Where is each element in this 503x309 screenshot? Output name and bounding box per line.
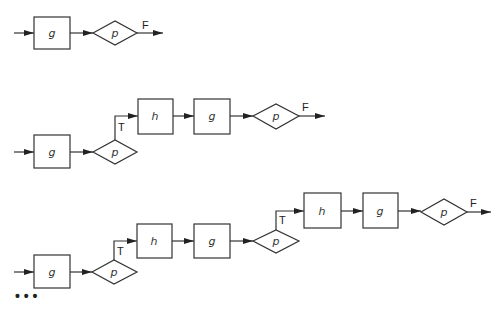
process-label-g: g xyxy=(49,266,56,279)
process-label-h: h xyxy=(151,235,158,248)
row-3: g p T h g p T h g p F xyxy=(14,193,491,288)
process-label-h: h xyxy=(319,205,326,218)
row-1: g p F xyxy=(14,17,163,49)
continuation-ellipsis: • • • xyxy=(15,288,38,304)
false-label: F xyxy=(302,101,309,113)
true-label: T xyxy=(118,121,125,133)
decision-label-p: p xyxy=(440,206,448,219)
decision-label-p: p xyxy=(111,146,119,159)
decision-label-p: p xyxy=(272,235,280,248)
process-label-g: g xyxy=(49,27,56,40)
decision-label-p: p xyxy=(111,27,119,40)
process-label-h: h xyxy=(152,110,159,123)
true-label: T xyxy=(117,245,124,257)
false-label: F xyxy=(142,19,149,31)
process-label-g: g xyxy=(209,110,216,123)
flowchart-diagram: g p F g p T h g p F g p T h xyxy=(0,0,503,309)
process-label-g: g xyxy=(209,235,216,248)
decision-label-p: p xyxy=(110,266,118,279)
process-label-g: g xyxy=(377,205,384,218)
process-label-g: g xyxy=(49,146,56,159)
false-label: F xyxy=(470,197,477,209)
true-label: T xyxy=(279,214,286,226)
decision-label-p: p xyxy=(272,110,280,123)
row-2: g p T h g p F xyxy=(14,99,325,168)
